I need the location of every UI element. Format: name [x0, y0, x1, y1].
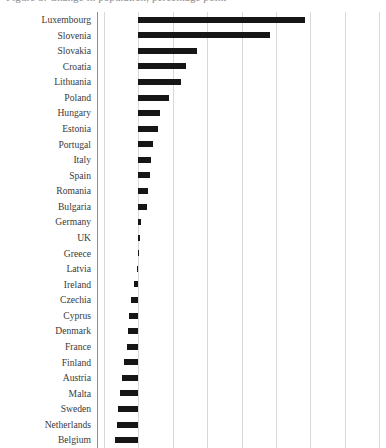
category-label: Czechia — [0, 292, 91, 308]
bar — [138, 95, 168, 101]
bar — [122, 375, 139, 381]
bar-row — [97, 401, 386, 417]
bar — [138, 235, 140, 241]
bar-row — [97, 105, 386, 121]
category-label: Hungary — [0, 105, 91, 121]
bar — [138, 188, 148, 194]
category-label: Croatia — [0, 59, 91, 75]
category-label: France — [0, 339, 91, 355]
bar-row — [97, 292, 386, 308]
bar — [137, 266, 138, 272]
category-label: Slovakia — [0, 43, 91, 59]
bar — [118, 406, 138, 412]
bar-row — [97, 152, 386, 168]
category-label: Portugal — [0, 137, 91, 153]
bar-row — [97, 43, 386, 59]
bar-row — [97, 168, 386, 184]
bar — [127, 344, 139, 350]
bar-row — [97, 90, 386, 106]
category-label: Estonia — [0, 121, 91, 137]
plot-area — [97, 12, 386, 448]
bar — [124, 359, 138, 365]
bar-row — [97, 121, 386, 137]
category-label: UK — [0, 230, 91, 246]
bar — [131, 297, 138, 303]
category-label: Denmark — [0, 323, 91, 339]
bar — [138, 250, 139, 256]
category-label: Slovenia — [0, 28, 91, 44]
category-label: Ireland — [0, 277, 91, 293]
bar-row — [97, 277, 386, 293]
bar — [138, 110, 159, 116]
bar-chart: Figure 3. Change in population, percenta… — [0, 0, 386, 448]
bar-row — [97, 74, 386, 90]
category-label: Poland — [0, 90, 91, 106]
bar-row — [97, 214, 386, 230]
bar-row — [97, 28, 386, 44]
bar-row — [97, 199, 386, 215]
category-label: Latvia — [0, 261, 91, 277]
chart-title: Figure 3. Change in population, percenta… — [6, 0, 376, 5]
bar-row — [97, 12, 386, 28]
bar — [138, 172, 150, 178]
category-label: Romania — [0, 183, 91, 199]
bar — [138, 32, 270, 38]
category-label: Cyprus — [0, 308, 91, 324]
bar — [138, 48, 197, 54]
bar-row — [97, 137, 386, 153]
bar-row — [97, 355, 386, 371]
bar — [117, 422, 138, 428]
bar-row — [97, 183, 386, 199]
category-label: Spain — [0, 168, 91, 184]
category-label: Greece — [0, 246, 91, 262]
bar-row — [97, 246, 386, 262]
category-axis-labels: LuxembourgSloveniaSlovakiaCroatiaLithuan… — [0, 12, 91, 448]
bar — [138, 219, 141, 225]
category-label: Italy — [0, 152, 91, 168]
bar-row — [97, 339, 386, 355]
bar — [138, 141, 152, 147]
bar — [120, 390, 139, 396]
bar — [138, 79, 181, 85]
category-label: Finland — [0, 355, 91, 371]
bar-row — [97, 417, 386, 433]
bar — [138, 157, 151, 163]
bar — [138, 63, 186, 69]
bar-row — [97, 370, 386, 386]
bar — [115, 437, 138, 443]
bar-row — [97, 59, 386, 75]
category-label: Germany — [0, 214, 91, 230]
bar-row — [97, 386, 386, 402]
category-label: Austria — [0, 370, 91, 386]
category-label: Lithuania — [0, 74, 91, 90]
bar-row — [97, 230, 386, 246]
bar — [138, 17, 305, 23]
bar — [138, 126, 158, 132]
bar-row — [97, 261, 386, 277]
bar-row — [97, 308, 386, 324]
bar — [129, 313, 138, 319]
bar — [138, 204, 146, 210]
bar — [134, 281, 138, 287]
bar — [128, 328, 138, 334]
category-label: Netherlands — [0, 417, 91, 433]
category-label: Sweden — [0, 401, 91, 417]
category-label: Belgium — [0, 432, 91, 448]
category-label: Malta — [0, 386, 91, 402]
bar-row — [97, 323, 386, 339]
bar-row — [97, 432, 386, 448]
category-label: Luxembourg — [0, 12, 91, 28]
category-label: Bulgaria — [0, 199, 91, 215]
